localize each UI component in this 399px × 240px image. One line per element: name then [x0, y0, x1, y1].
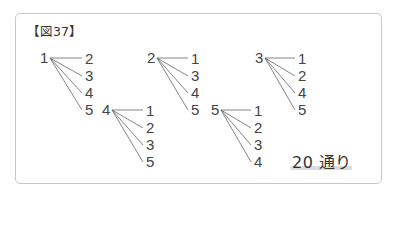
tree-edge: [50, 58, 82, 76]
tree-edge: [112, 110, 143, 145]
tree-edge: [265, 58, 295, 93]
tree-5: 51234: [211, 101, 262, 170]
tree-leaf: 3: [191, 67, 199, 84]
tree-edge: [221, 110, 251, 162]
tree-4: 41235: [102, 101, 154, 170]
tree-root: 4: [102, 101, 110, 118]
tree-leaf: 4: [191, 84, 199, 101]
tree-leaf: 2: [85, 50, 93, 67]
tree-leaf: 4: [254, 153, 262, 170]
tree-edge: [265, 58, 295, 110]
tree-edge: [221, 110, 251, 128]
tree-edge: [157, 58, 188, 110]
tree-edge: [112, 110, 143, 162]
tree-root: 5: [211, 101, 219, 118]
tree-leaf: 5: [85, 101, 93, 118]
tree-3: 31245: [255, 49, 306, 118]
tree-root: 1: [40, 49, 48, 66]
tree-leaf: 1: [191, 50, 199, 67]
tree-edge: [50, 58, 82, 93]
tree-leaf: 4: [298, 84, 306, 101]
result-count: 20 通り: [292, 149, 352, 173]
tree-edge: [221, 110, 251, 145]
tree-leaf: 5: [298, 101, 306, 118]
tree-1: 12345: [40, 49, 93, 118]
tree-root: 2: [147, 49, 155, 66]
tree-edge: [50, 58, 82, 110]
tree-leaf: 1: [254, 102, 262, 119]
tree-leaf: 3: [254, 136, 262, 153]
tree-edge: [157, 58, 188, 76]
tree-2: 21345: [147, 49, 199, 118]
tree-edge: [265, 58, 295, 76]
tree-root: 3: [255, 49, 263, 66]
tree-leaf: 4: [85, 84, 93, 101]
tree-leaf: 1: [146, 102, 154, 119]
tree-leaf: 5: [191, 101, 199, 118]
tree-edge: [157, 58, 188, 93]
tree-edge: [112, 110, 143, 128]
tree-leaf: 2: [298, 67, 306, 84]
tree-leaf: 5: [146, 153, 154, 170]
tree-leaf: 2: [254, 119, 262, 136]
tree-leaf: 3: [146, 136, 154, 153]
tree-leaf: 3: [85, 67, 93, 84]
tree-leaf: 2: [146, 119, 154, 136]
tree-leaf: 1: [298, 50, 306, 67]
